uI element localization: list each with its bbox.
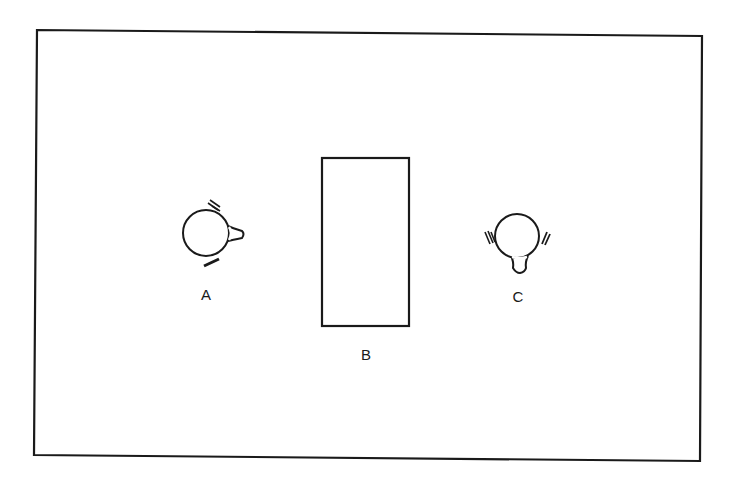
label-a: A [201,287,211,302]
scene-diagram [0,0,734,485]
label-b: B [361,347,371,362]
person-a-icon [183,200,244,266]
object-b-rectangle [322,158,409,326]
person-c-icon [485,214,550,273]
outer-frame [34,30,702,461]
label-c: C [513,289,524,304]
